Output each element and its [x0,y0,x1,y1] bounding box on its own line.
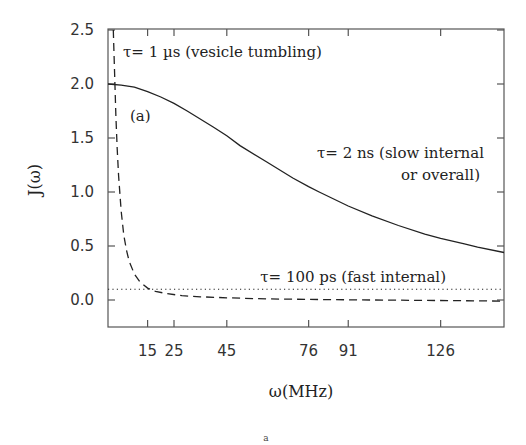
x-axis-label: ω(MHz) [269,382,333,401]
x-tick-label: 126 [426,342,455,360]
figure-caption: a [263,433,269,443]
annotation-vesicle-tumbling: τ= 1 µs (vesicle tumbling) [123,43,322,61]
x-axis-ticks: 1525457691126 [138,29,455,360]
annotation-slow-internal: τ= 2 ns (slow internal [317,144,484,162]
x-tick-label: 76 [299,342,318,360]
annotation-slow-internal-line2: or overall) [401,166,480,184]
x-tick-label: 25 [164,342,183,360]
spectral-density-chart: 0.00.51.01.52.02.5 1525457691126 τ= 1 µs… [0,0,526,445]
y-axis-ticks: 0.00.51.01.52.02.5 [70,21,504,309]
x-tick-label: 91 [339,342,358,360]
y-tick-label: 2.0 [70,75,94,93]
x-tick-label: 15 [138,342,157,360]
y-tick-label: 1.0 [70,183,94,201]
y-tick-label: 1.5 [70,129,94,147]
annotation-fast-internal: τ= 100 ps (fast internal) [260,268,446,286]
y-tick-label: 0.5 [70,237,94,255]
y-tick-label: 0.0 [70,291,94,309]
x-tick-label: 45 [217,342,236,360]
panel-label: (a) [130,107,151,125]
y-tick-label: 2.5 [70,21,94,39]
y-axis-label: J(ω) [25,164,44,198]
